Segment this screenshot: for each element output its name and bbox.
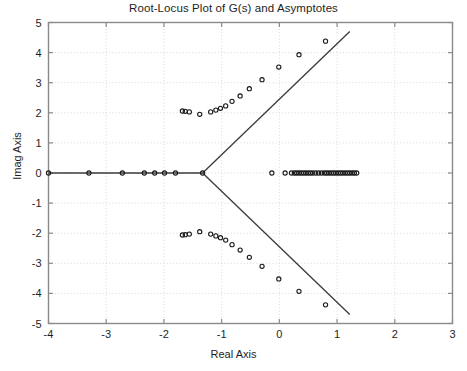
data-point xyxy=(277,277,281,281)
x-tick-label: 1 xyxy=(334,328,340,340)
data-point xyxy=(209,110,213,114)
root-locus-upper-branch xyxy=(180,39,327,116)
data-point xyxy=(323,39,327,43)
data-point xyxy=(214,234,218,238)
data-point xyxy=(230,99,234,103)
data-point xyxy=(230,243,234,247)
axis-tick-labels: -4-3-2-10123-5-4-3-2-1012345 xyxy=(32,17,456,340)
data-point xyxy=(224,238,228,242)
data-point xyxy=(209,232,213,236)
data-point xyxy=(297,53,301,57)
root-locus-figure: Root-Locus Plot of G(s) and Asymptotes I… xyxy=(0,0,467,371)
data-point xyxy=(238,248,242,252)
y-tick-label: -2 xyxy=(32,227,42,239)
y-tick-label: -3 xyxy=(32,257,42,269)
x-tick-label: -1 xyxy=(217,328,227,340)
data-point xyxy=(214,108,218,112)
x-tick-label: -3 xyxy=(101,328,111,340)
data-point xyxy=(260,264,264,268)
data-point xyxy=(323,303,327,307)
data-point xyxy=(238,94,242,98)
data-point xyxy=(297,289,301,293)
data-point xyxy=(218,106,222,110)
y-tick-label: 5 xyxy=(35,17,41,29)
y-tick-label: -1 xyxy=(32,197,42,209)
data-point xyxy=(260,78,264,82)
x-tick-label: 3 xyxy=(449,328,455,340)
y-tick-label: 4 xyxy=(35,47,41,59)
y-tick-label: -5 xyxy=(32,318,42,330)
y-tick-label: 3 xyxy=(35,77,41,89)
y-tick-label: 1 xyxy=(35,137,41,149)
x-tick-label: 2 xyxy=(392,328,398,340)
data-point xyxy=(247,87,251,91)
data-point xyxy=(283,171,287,175)
y-tick-label: 2 xyxy=(35,107,41,119)
y-tick-label: -4 xyxy=(32,287,42,299)
x-tick-label: -2 xyxy=(159,328,169,340)
data-point xyxy=(277,65,281,69)
x-tick-label: 0 xyxy=(276,328,282,340)
root-locus-lower-branch xyxy=(180,230,327,307)
x-tick-label: -4 xyxy=(44,328,54,340)
data-point xyxy=(224,104,228,108)
plot-canvas: -4-3-2-10123-5-4-3-2-1012345 xyxy=(0,0,467,371)
y-tick-label: 0 xyxy=(35,167,41,179)
data-point xyxy=(247,255,251,259)
